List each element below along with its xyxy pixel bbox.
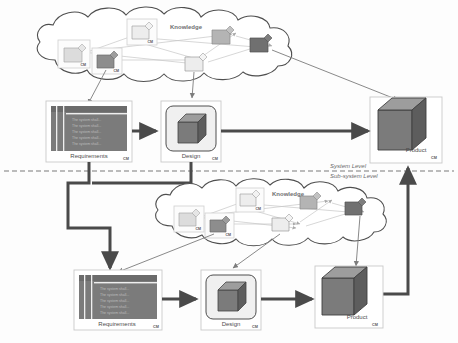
requirements-rule bbox=[63, 106, 64, 151]
knowledge-node: CM bbox=[174, 206, 204, 232]
product-label: Product bbox=[406, 147, 427, 153]
cm-tag: CM bbox=[252, 325, 258, 329]
subsystem-design[interactable]: Design CM bbox=[201, 270, 261, 330]
subsystem-product[interactable]: Product CM bbox=[315, 266, 383, 328]
requirement-line: The system shall... bbox=[100, 305, 129, 309]
requirements-rule bbox=[56, 106, 57, 151]
product-cube bbox=[322, 267, 367, 315]
systems-engineering-diagram: CM CM CM Knowl bbox=[0, 0, 458, 343]
system-product[interactable]: Product CM bbox=[370, 97, 442, 163]
cm-tag: CM bbox=[212, 157, 218, 161]
system-level-label: System Level bbox=[330, 163, 367, 169]
cm-tag: CM bbox=[123, 157, 129, 161]
requirements-doc-header bbox=[79, 275, 157, 281]
cm-tag: CM bbox=[431, 156, 437, 160]
design-label: Design bbox=[222, 321, 241, 327]
requirements-rule bbox=[91, 275, 92, 319]
requirements-doc-header bbox=[51, 106, 127, 112]
knowledge-label-bottom: Knowledge bbox=[272, 191, 305, 197]
system-knowledge-cloud: CM CM CM Knowl bbox=[37, 7, 291, 82]
knowledge-label-top: Knowledge bbox=[170, 24, 203, 30]
requirement-line: The system shall... bbox=[100, 293, 129, 297]
level-divider: System Level Sub-system Level bbox=[4, 163, 454, 179]
requirement-line: The system shall... bbox=[72, 142, 101, 146]
cm-tag: CM bbox=[195, 227, 201, 231]
requirement-line: The system shall... bbox=[72, 124, 101, 128]
cm-tag: CM bbox=[153, 325, 159, 329]
cm-tag: CM bbox=[225, 233, 231, 237]
system-design[interactable]: Design CM bbox=[161, 101, 221, 162]
cm-tag: CM bbox=[255, 207, 261, 211]
system-requirements[interactable]: The system shall... The system shall... … bbox=[46, 101, 132, 162]
knowledge-node: CM bbox=[127, 19, 157, 45]
requirements-rule bbox=[84, 275, 85, 319]
requirements-rule bbox=[66, 113, 127, 114]
requirements-rule bbox=[94, 282, 157, 283]
subsystem-knowledge-cloud: CM CM CM Knowledge bbox=[156, 179, 387, 246]
subsystem-requirements[interactable]: The system shall... The system shall... … bbox=[74, 270, 162, 330]
cm-tag: CM bbox=[147, 40, 153, 44]
product-label: Product bbox=[347, 314, 368, 320]
requirements-label: Requirements bbox=[98, 321, 135, 327]
cm-tag: CM bbox=[80, 63, 86, 67]
design-label: Design bbox=[182, 153, 201, 159]
requirement-line: The system shall... bbox=[100, 287, 129, 291]
knowledge-node: CM bbox=[236, 188, 264, 212]
knowledge-node: CM bbox=[205, 213, 234, 238]
knowledge-node: CM bbox=[92, 48, 122, 74]
cm-tag: CM bbox=[372, 323, 378, 327]
subsystem-level-label: Sub-system Level bbox=[330, 173, 378, 179]
product-cube bbox=[378, 98, 426, 150]
diagram-canvas: CM CM CM Knowl bbox=[0, 0, 458, 343]
design-cube bbox=[178, 114, 206, 143]
requirement-line: The system shall... bbox=[100, 311, 129, 315]
requirements-label: Requirements bbox=[70, 153, 107, 159]
knowledge-node: CM bbox=[58, 40, 90, 68]
requirement-line: The system shall... bbox=[72, 118, 101, 122]
requirement-line: The system shall... bbox=[72, 130, 101, 134]
design-cube bbox=[218, 282, 246, 311]
requirement-line: The system shall... bbox=[72, 136, 101, 140]
requirement-line: The system shall... bbox=[100, 299, 129, 303]
cm-tag: CM bbox=[113, 69, 119, 73]
